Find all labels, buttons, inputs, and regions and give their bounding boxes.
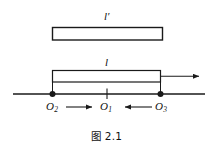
point-label-O1-sub: 1 xyxy=(108,105,112,114)
point-marker-O3 xyxy=(158,91,164,97)
point-label-O2-sub: 2 xyxy=(54,105,58,114)
point-label-O1: O1 xyxy=(100,101,112,114)
point-marker-O2 xyxy=(50,91,56,97)
point-label-O2: O2 xyxy=(46,101,58,114)
upper-rod-label: l′ xyxy=(104,11,109,22)
figure-drawing xyxy=(0,0,213,149)
point-label-O2-base: O xyxy=(46,100,54,112)
figure-container: l′ l O2 O1 O3 图 2.1 xyxy=(0,0,213,149)
lower-rod-label: l xyxy=(105,57,108,68)
upper-rod-rect xyxy=(53,28,163,41)
point-label-O3-base: O xyxy=(155,100,163,112)
lower-rod-rect xyxy=(53,71,161,83)
point-label-O3: O3 xyxy=(155,101,167,114)
point-label-O1-base: O xyxy=(100,100,108,112)
prime-symbol: ′ xyxy=(107,10,109,22)
figure-caption: 图 2.1 xyxy=(0,128,213,143)
point-label-O3-sub: 3 xyxy=(163,105,167,114)
lower-rod-label-text: l xyxy=(105,56,108,68)
